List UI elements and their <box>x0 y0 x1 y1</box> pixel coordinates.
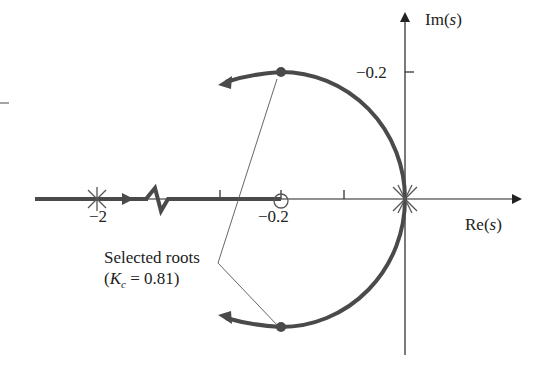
selected-root-upper <box>276 67 286 77</box>
locus-arrow-icon <box>122 193 134 205</box>
real-axis-label: Re(s) <box>465 215 502 234</box>
real-axis-locus <box>35 188 281 211</box>
imag-axis-label: Im(s) <box>425 10 462 29</box>
annotation-line2: (Kc = 0.81) <box>104 269 179 290</box>
locus-arrow-icon <box>218 311 232 324</box>
imag-tick-label-minus-0.2: −0.2 <box>356 63 387 82</box>
real-tick-label-minus-0.2: −0.2 <box>258 207 289 226</box>
annotation-line1: Selected roots <box>104 248 200 267</box>
locus-arrow-icon <box>218 76 232 89</box>
imag-axis-arrow-icon <box>400 12 410 22</box>
real-axis-arrow-icon <box>512 194 522 204</box>
real-tick-label-minus-2: −2 <box>89 207 107 226</box>
annotation-leaders <box>218 79 278 326</box>
root-locus-diagram: −2 −0.2 −0.2 Im(s) Re(s) Selected roots … <box>0 0 534 372</box>
selected-root-lower <box>276 322 286 332</box>
